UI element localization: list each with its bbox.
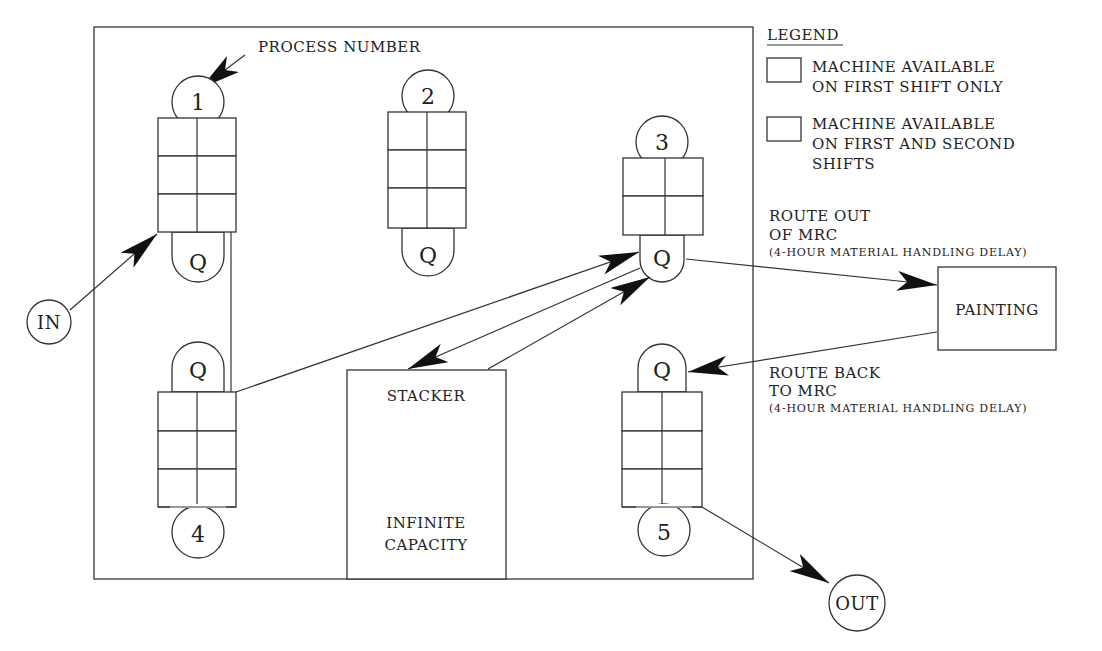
process-number: 5 bbox=[657, 520, 671, 545]
route-back-note: (4-HOUR MATERIAL HANDLING DELAY) bbox=[769, 402, 1027, 415]
legend-item-2-line3: SHIFTS bbox=[812, 155, 875, 173]
queue-label: Q bbox=[653, 246, 671, 271]
queue-label: Q bbox=[653, 358, 671, 383]
stacker-title: STACKER bbox=[387, 387, 466, 405]
route-back-line2: TO MRC bbox=[769, 382, 837, 400]
painting-node[interactable]: PAINTING bbox=[938, 267, 1056, 350]
legend-swatch-both-shifts bbox=[767, 117, 801, 141]
process-number: 1 bbox=[191, 90, 205, 115]
legend: LEGEND MACHINE AVAILABLE ON FIRST SHIFT … bbox=[767, 26, 1015, 173]
painting-label: PAINTING bbox=[955, 301, 1039, 319]
legend-item-2-line2: ON FIRST AND SECOND bbox=[812, 135, 1015, 153]
route-back-line1: ROUTE BACK bbox=[769, 364, 881, 382]
in-node[interactable]: IN bbox=[27, 300, 71, 344]
legend-item-2-line1: MACHINE AVAILABLE bbox=[812, 115, 995, 133]
process-number: 3 bbox=[655, 130, 669, 155]
out-node[interactable]: OUT bbox=[829, 575, 885, 631]
in-label: IN bbox=[37, 312, 61, 333]
process-number: 2 bbox=[421, 84, 435, 109]
process-flow-diagram: PROCESS NUMBER 1 Q 2 Q 3 Q Q bbox=[0, 0, 1102, 651]
route-out-line2: OF MRC bbox=[769, 226, 838, 244]
legend-item-1-line2: ON FIRST SHIFT ONLY bbox=[812, 78, 1004, 96]
queue-label: Q bbox=[419, 243, 437, 268]
route-out-label: ROUTE OUT OF MRC (4-HOUR MATERIAL HANDLI… bbox=[769, 207, 1027, 259]
legend-title: LEGEND bbox=[767, 26, 839, 44]
stacker-capacity-line2: CAPACITY bbox=[384, 536, 468, 554]
queue-label: Q bbox=[189, 250, 207, 275]
out-label: OUT bbox=[835, 593, 878, 614]
legend-swatch-first-shift bbox=[767, 58, 801, 82]
queue-label: Q bbox=[189, 358, 207, 383]
legend-item-1-line1: MACHINE AVAILABLE bbox=[812, 58, 995, 76]
stacker[interactable]: STACKER INFINITE CAPACITY bbox=[347, 370, 506, 579]
route-out-note: (4-HOUR MATERIAL HANDLING DELAY) bbox=[769, 246, 1027, 259]
stacker-capacity-line1: INFINITE bbox=[386, 514, 465, 532]
route-out-line1: ROUTE OUT bbox=[769, 207, 870, 225]
process-number-label: PROCESS NUMBER bbox=[258, 38, 421, 56]
process-number: 4 bbox=[191, 522, 205, 547]
route-back-label: ROUTE BACK TO MRC (4-HOUR MATERIAL HANDL… bbox=[769, 364, 1027, 415]
